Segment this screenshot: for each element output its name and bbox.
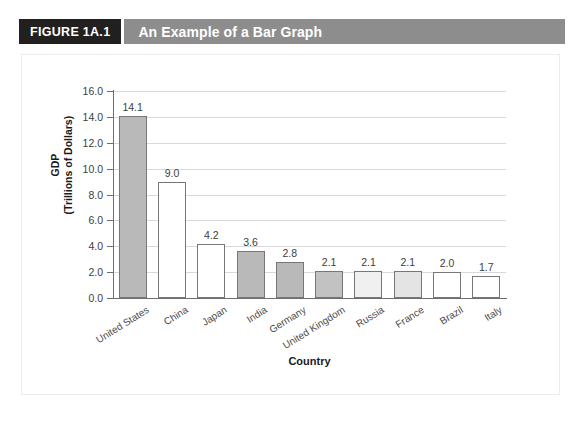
figure-number-label: FIGURE 1A.1 (19, 19, 121, 44)
figure-body-frame (21, 54, 560, 395)
figure-header: FIGURE 1A.1 An Example of a Bar Graph (19, 19, 565, 44)
figure-title: An Example of a Bar Graph (124, 19, 565, 44)
